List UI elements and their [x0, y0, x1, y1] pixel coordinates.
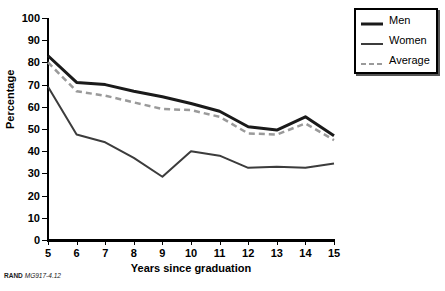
y-tick-label-50: 50 [28, 123, 40, 135]
series-line-men [48, 56, 334, 136]
legend-item-men: Men [356, 10, 436, 30]
legend-item-women: Women [356, 30, 436, 50]
legend-swatch-men [361, 15, 383, 25]
legend-item-average: Average [356, 50, 436, 70]
x-tick-label-5: 5 [45, 247, 51, 259]
chart-figure: 0102030405060708090100 56789101112131415… [0, 0, 445, 291]
legend-label-women: Women [389, 34, 427, 46]
plot-area: 0102030405060708090100 56789101112131415 [48, 18, 334, 240]
figure-code: MG917-4.12 [25, 272, 61, 279]
figure-source-note: RANDMG917-4.12 [4, 272, 61, 279]
legend-label-men: Men [389, 14, 410, 26]
x-tick-label-13: 13 [271, 247, 283, 259]
legend-swatch-women [361, 35, 383, 45]
legend-swatch-average [361, 55, 383, 65]
series-line-average [48, 62, 334, 140]
x-tick-label-10: 10 [185, 247, 197, 259]
y-tick-label-20: 20 [28, 190, 40, 202]
x-tick-label-9: 9 [159, 247, 165, 259]
rand-logo-text: RAND [4, 272, 23, 279]
y-tick-label-10: 10 [28, 212, 40, 224]
x-tick-label-15: 15 [328, 247, 340, 259]
y-tick-label-30: 30 [28, 167, 40, 179]
x-tick-label-6: 6 [74, 247, 80, 259]
y-tick-label-90: 90 [28, 34, 40, 46]
x-tick-label-7: 7 [102, 247, 108, 259]
series-line-women [48, 87, 334, 177]
y-axis-title: Percentage [4, 70, 16, 129]
data-lines [48, 18, 334, 240]
y-tick-label-60: 60 [28, 101, 40, 113]
legend-label-average: Average [389, 54, 430, 66]
x-tick-label-11: 11 [214, 247, 226, 259]
x-tick-label-14: 14 [299, 247, 311, 259]
y-tick-label-40: 40 [28, 145, 40, 157]
y-tick-label-70: 70 [28, 79, 40, 91]
x-tick-15 [334, 239, 335, 245]
y-tick-label-100: 100 [22, 12, 40, 24]
y-tick-label-0: 0 [34, 234, 40, 246]
cropped-title-remnant [60, 0, 220, 2]
x-axis-title: Years since graduation [48, 262, 334, 274]
x-tick-label-8: 8 [131, 247, 137, 259]
x-tick-label-12: 12 [242, 247, 254, 259]
chart-legend: MenWomenAverage [354, 8, 438, 74]
y-tick-label-80: 80 [28, 56, 40, 68]
